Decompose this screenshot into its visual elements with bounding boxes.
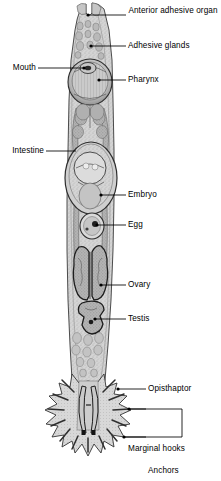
label-anchors: Anchors <box>148 466 179 475</box>
embryo <box>65 142 117 214</box>
label-anterior-adhesive-organ: Anterior adhesive organ <box>128 6 218 15</box>
label-intestine: Intestine <box>0 146 44 155</box>
label-mouth: Mouth <box>0 63 36 72</box>
label-pharynx: Pharynx <box>128 75 159 84</box>
label-embryo: Embryo <box>128 190 157 199</box>
label-opisthaptor: Opisthaptor <box>148 384 191 393</box>
label-testis: Testis <box>128 314 150 323</box>
label-marginal-hooks: Marginal hooks <box>128 444 185 453</box>
egg <box>80 213 104 239</box>
anatomical-figure: Anterior adhesive organ Adhesive glands … <box>0 0 221 481</box>
label-ovary: Ovary <box>128 280 150 289</box>
label-adhesive-glands: Adhesive glands <box>128 41 190 50</box>
opisthaptor <box>45 374 131 456</box>
label-egg: Egg <box>128 220 143 229</box>
